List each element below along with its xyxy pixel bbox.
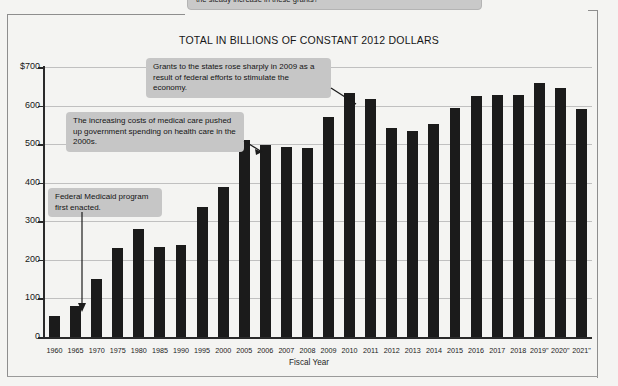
leader-arrow-medicaid bbox=[78, 303, 86, 312]
scan-page: the steady increase in these grants? TOT… bbox=[0, 0, 618, 386]
annotation-leader-lines bbox=[0, 0, 618, 386]
leader-line-medical bbox=[244, 141, 262, 152]
